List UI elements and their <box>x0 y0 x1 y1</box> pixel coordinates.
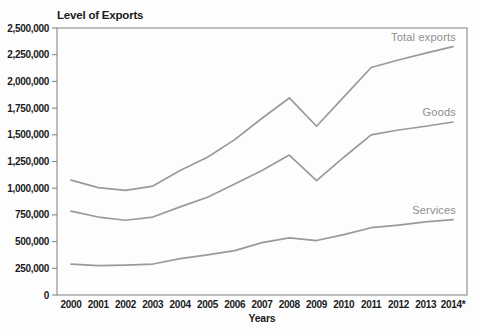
x-tick-label: 2014* <box>441 299 466 310</box>
x-tick-label: 2009 <box>306 299 328 310</box>
chart-page: Level of Exports 0250,000500,000750,0001… <box>0 0 480 335</box>
series-label-goods: Goods <box>423 106 457 118</box>
chart-title: Level of Exports <box>57 9 143 21</box>
y-tick-label: 2,500,000 <box>7 23 50 34</box>
y-tick-label: 2,250,000 <box>7 49 50 60</box>
y-tick-label: 1,000,000 <box>7 183 50 194</box>
series-line-total-exports <box>71 47 453 191</box>
y-tick-label: 0 <box>44 290 50 301</box>
y-tick-label: 1,500,000 <box>7 129 50 140</box>
y-tick-label: 500,000 <box>15 236 50 247</box>
x-tick-label: 2002 <box>115 299 137 310</box>
x-tick-label: 2000 <box>60 299 82 310</box>
series-label-services: Services <box>412 204 456 216</box>
series-line-goods <box>71 122 453 220</box>
y-tick-label: 250,000 <box>15 263 50 274</box>
x-tick-label: 2010 <box>333 299 355 310</box>
series-label-total-exports: Total exports <box>391 31 456 43</box>
x-axis-title: Years <box>57 312 467 324</box>
x-tick-label: 2013 <box>415 299 437 310</box>
x-tick-label: 2011 <box>361 299 382 310</box>
y-tick-label: 1,750,000 <box>7 103 50 114</box>
y-tick-label: 1,250,000 <box>7 156 50 167</box>
y-tick-label: 750,000 <box>15 209 50 220</box>
x-tick-label: 2012 <box>388 299 410 310</box>
series-line-services <box>71 220 453 266</box>
x-tick-label: 2004 <box>170 299 192 310</box>
x-tick-label: 2008 <box>279 299 301 310</box>
x-tick-label: 2005 <box>197 299 219 310</box>
x-tick-label: 2006 <box>224 299 246 310</box>
x-tick-label: 2001 <box>88 299 110 310</box>
line-chart: 0250,000500,000750,0001,000,0001,250,000… <box>0 0 480 335</box>
y-tick-label: 2,000,000 <box>7 76 50 87</box>
x-tick-label: 2007 <box>251 299 273 310</box>
plot-border <box>57 28 467 295</box>
x-tick-label: 2003 <box>142 299 164 310</box>
